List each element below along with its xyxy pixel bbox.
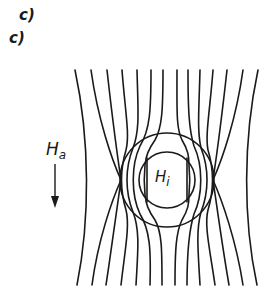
field-line-diagram bbox=[0, 0, 280, 303]
applied-field-label: Ha bbox=[46, 141, 66, 161]
internal-field-subscript: i bbox=[166, 175, 169, 189]
applied-field-arrow-icon bbox=[51, 164, 59, 208]
applied-field-subscript: a bbox=[59, 148, 66, 162]
internal-field-symbol: H bbox=[155, 168, 166, 186]
applied-field-symbol: H bbox=[46, 139, 59, 159]
internal-field-label: Hi bbox=[155, 170, 170, 188]
